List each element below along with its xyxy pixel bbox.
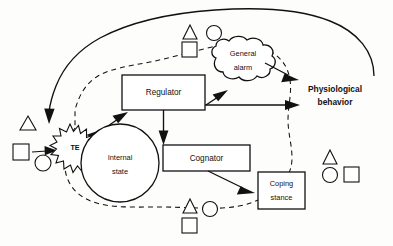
general-alarm-label-line1: General xyxy=(230,49,257,58)
symbol-cluster-left xyxy=(13,116,51,171)
internal-state-circle xyxy=(81,124,159,202)
regulator-to-behavior-arrowhead xyxy=(285,100,300,110)
physiological-behavior-output: Physiological behavior xyxy=(308,84,362,107)
circle-symbol xyxy=(203,202,218,217)
triangle-symbol xyxy=(20,116,36,130)
cognator-node: Cognator xyxy=(163,145,250,171)
circle-symbol xyxy=(207,26,222,41)
square-symbol xyxy=(182,42,197,57)
triangle-symbol xyxy=(183,199,197,213)
regulator-to-cognator-arrowhead xyxy=(159,131,169,146)
output-label-line1: Physiological xyxy=(308,84,362,94)
cognator-to-coping-arrowhead xyxy=(237,186,255,194)
square-symbol xyxy=(182,218,197,233)
coping-stance-label-line2: stance xyxy=(271,193,293,202)
general-alarm-label-line2: alarm xyxy=(234,63,252,72)
cognator-label: Cognator xyxy=(190,154,224,163)
triangle-symbol xyxy=(183,25,197,39)
symbol-cluster-bottom xyxy=(182,199,218,233)
alarm-to-behavior-arrowhead xyxy=(281,74,299,83)
internal-state-label-line1: Internal xyxy=(108,153,133,162)
general-alarm-node: General alarm xyxy=(212,36,275,80)
general-alarm-cloud xyxy=(212,36,275,80)
regulator-label: Regulator xyxy=(146,88,182,97)
circle-symbol xyxy=(35,155,51,171)
te-label: TE xyxy=(70,143,79,152)
square-symbol xyxy=(344,167,359,182)
internal-state-label-line2: state xyxy=(112,167,128,176)
triangle-symbol xyxy=(323,150,337,164)
diagram-canvas: TE Internal state Regulator xyxy=(0,0,393,246)
square-symbol xyxy=(13,144,29,160)
output-label-line2: behavior xyxy=(318,97,354,107)
internal-state-node: Internal state xyxy=(81,124,159,202)
feedback-loop-arrowhead xyxy=(44,109,54,125)
coping-stance-node: Coping stance xyxy=(258,172,305,209)
coping-stance-label-line1: Coping xyxy=(270,179,293,188)
circle-symbol xyxy=(323,168,338,183)
adaptation-model-diagram: TE Internal state Regulator xyxy=(0,0,393,246)
cognator-to-coping-line xyxy=(208,171,243,188)
symbol-cluster-right xyxy=(323,150,360,183)
regulator-node: Regulator xyxy=(122,75,205,110)
coping-stance-box xyxy=(258,172,305,209)
